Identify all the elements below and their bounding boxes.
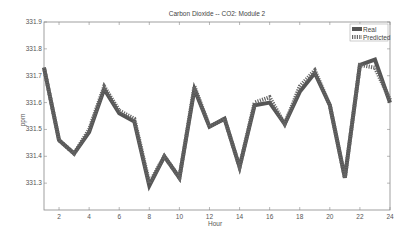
x-tick-label: 24 (386, 213, 394, 220)
x-tick-label: 16 (266, 213, 274, 220)
legend-real-label: Real (363, 26, 377, 33)
y-tick-label: 331.5 (26, 125, 43, 132)
y-tick-label: 331.4 (26, 152, 43, 159)
x-tick-label: 4 (87, 213, 91, 220)
x-tick-label: 18 (296, 213, 304, 220)
y-tick-label: 331.9 (26, 18, 43, 25)
y-axis-label: ppm (19, 114, 27, 127)
x-tick-label: 12 (206, 213, 214, 220)
y-tick-label: 331.7 (26, 72, 43, 79)
x-tick-label: 6 (117, 213, 121, 220)
x-axis-label: Hour (208, 220, 223, 227)
x-tick-label: 20 (326, 213, 334, 220)
legend: Real Predicted (350, 24, 391, 41)
x-tick-label: 10 (176, 213, 184, 220)
x-tick-label: 8 (147, 213, 151, 220)
legend-predicted-label: Predicted (363, 34, 391, 41)
x-tick-label: 14 (236, 213, 244, 220)
y-tick-label: 331.8 (26, 45, 43, 52)
y-tick-label: 331.3 (26, 179, 43, 186)
x-tick-label: 22 (356, 213, 364, 220)
x-tick-label: 2 (57, 213, 61, 220)
y-tick-label: 331.6 (26, 99, 43, 106)
chart-title: Carbon Dioxide -- CO2: Module 2 (169, 10, 266, 17)
line-chart: 24681012141618202224331.3331.4331.5331.6… (0, 0, 415, 235)
